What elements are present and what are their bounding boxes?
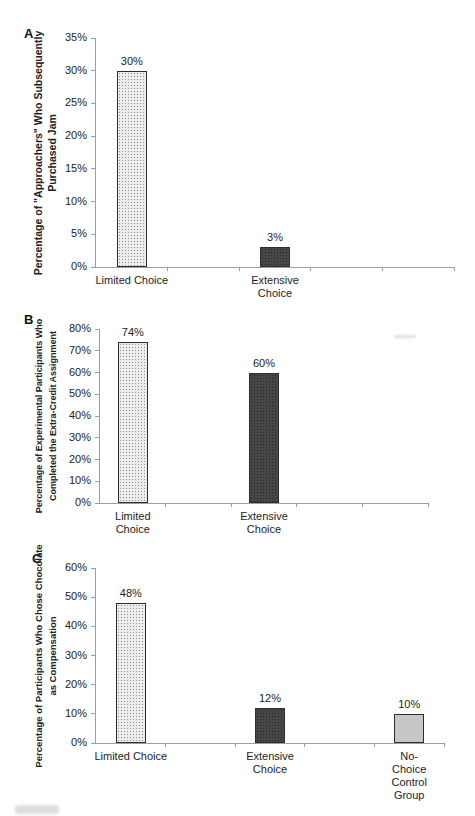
bar-extensive-choice (255, 708, 285, 743)
y-axis-tick-label: 30% (43, 649, 87, 662)
y-axis-tick (91, 626, 95, 627)
y-axis-tick-label: 60% (43, 561, 87, 574)
x-axis-tick (444, 743, 445, 747)
x-category-label: Extensive Choice (246, 750, 294, 776)
y-axis-tick-label: 40% (43, 619, 87, 632)
y-axis-tick-label: 50% (43, 590, 87, 603)
y-axis-tick (91, 568, 95, 569)
bar-value-label: 10% (398, 698, 420, 710)
figure-page: A Percentage of "Approachers" Who Subseq… (0, 0, 475, 816)
x-axis-tick (374, 743, 375, 747)
plot-area-c: 0%10%20%30%40%50%60%48%Limited Choice12%… (95, 568, 444, 744)
x-axis-tick (235, 743, 236, 747)
x-category-label: Limited Choice (94, 750, 167, 763)
x-axis-tick (165, 743, 166, 747)
y-axis-tick (91, 713, 95, 714)
y-axis-tick (91, 684, 95, 685)
y-axis-tick (91, 597, 95, 598)
y-axis-tick-label: 0% (43, 736, 87, 749)
bar-value-label: 48% (120, 587, 142, 599)
x-axis-tick (304, 743, 305, 747)
bar-no-choice-control-group (394, 714, 424, 743)
chart-panel-c: C Percentage of Participants Who Chose C… (0, 0, 475, 816)
y-axis-tick (91, 655, 95, 656)
x-category-label: No-Choice Control Group (391, 750, 426, 802)
y-axis-tick (91, 743, 95, 744)
y-axis-tick-label: 10% (43, 707, 87, 720)
bar-value-label: 12% (259, 692, 281, 704)
y-axis-tick-label: 20% (43, 678, 87, 691)
bar-limited-choice (116, 603, 146, 743)
